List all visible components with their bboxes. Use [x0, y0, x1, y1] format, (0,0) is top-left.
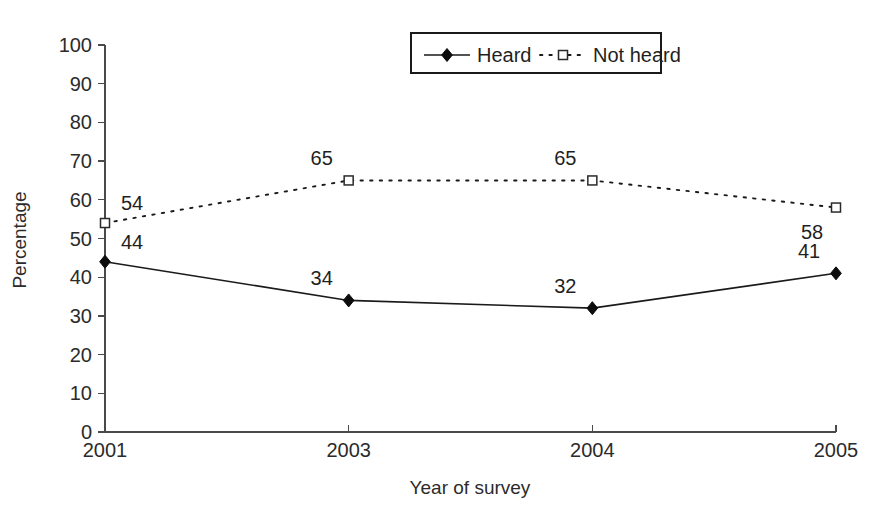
data-point-marker	[832, 203, 841, 212]
data-point-label: 54	[121, 192, 143, 214]
data-point-marker	[344, 176, 353, 185]
x-tick-label: 2001	[83, 439, 128, 461]
y-tick-label: 10	[70, 382, 92, 404]
chart-legend[interactable]: HeardNot heard	[411, 33, 681, 73]
legend-label: Not heard	[593, 44, 681, 66]
data-point-label: 58	[801, 221, 823, 243]
data-point-label: 65	[311, 147, 333, 169]
data-point-label: 34	[311, 267, 333, 289]
legend-marker-icon	[559, 51, 568, 60]
y-tick-label: 100	[59, 34, 92, 56]
chart-figure: 0102030405060708090100 2001200320042005 …	[0, 0, 884, 521]
x-tick-label: 2004	[570, 439, 615, 461]
data-point-marker	[588, 176, 597, 185]
line-chart: 0102030405060708090100 2001200320042005 …	[0, 0, 884, 521]
data-point-label: 32	[554, 275, 576, 297]
data-point-label: 44	[121, 231, 143, 253]
y-tick-label: 30	[70, 305, 92, 327]
y-tick-label: 60	[70, 189, 92, 211]
data-point-label: 41	[798, 240, 820, 262]
y-tick-label: 80	[70, 111, 92, 133]
x-axis-title: Year of survey	[410, 477, 531, 498]
legend-label: Heard	[477, 44, 531, 66]
data-point-marker	[101, 219, 110, 228]
x-tick-label: 2005	[814, 439, 859, 461]
data-point-label: 65	[554, 147, 576, 169]
y-tick-label: 40	[70, 266, 92, 288]
y-tick-label: 50	[70, 228, 92, 250]
plot-background	[0, 0, 884, 521]
y-axis-title: Percentage	[9, 191, 30, 288]
y-tick-label: 90	[70, 73, 92, 95]
y-tick-label: 70	[70, 150, 92, 172]
y-tick-label: 20	[70, 344, 92, 366]
x-tick-label: 2003	[326, 439, 371, 461]
